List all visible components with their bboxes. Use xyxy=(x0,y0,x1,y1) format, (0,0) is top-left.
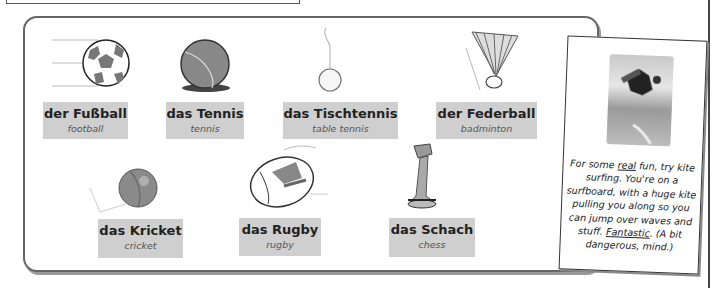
vocab-item-chess: das Schach chess xyxy=(389,218,475,257)
vocab-item-cricket: das Kricket cricket xyxy=(98,219,183,258)
vocab-item-rugby: das Rugby rugby xyxy=(239,218,321,256)
rugby-ball-icon xyxy=(244,142,334,212)
football-icon xyxy=(50,36,130,96)
cricket-ball-icon xyxy=(86,168,166,218)
vocab-item-badminton: der Federball badminton xyxy=(436,102,537,139)
kite-surfing-note-card: For some real fun, try kite surfing. You… xyxy=(559,35,708,274)
german-word: das Schach xyxy=(389,221,475,238)
english-translation: cricket xyxy=(98,239,183,252)
vocab-item-table-tennis: das Tischtennis table tennis xyxy=(283,102,398,139)
top-frame-box xyxy=(6,0,300,4)
german-word: das Tennis xyxy=(166,105,244,122)
vocab-item-football: der Fußball football xyxy=(43,102,128,139)
note-emphasis-fantastic: Fantastic xyxy=(606,226,650,239)
german-word: das Tischtennis xyxy=(283,105,398,122)
kite-surfer-photo xyxy=(606,54,673,146)
note-text-part: For some xyxy=(570,158,618,171)
german-word: das Rugby xyxy=(239,221,321,238)
english-translation: football xyxy=(43,122,128,135)
ping-pong-ball-icon xyxy=(318,26,358,96)
note-emphasis-real: real xyxy=(617,159,636,171)
tennis-ball-icon xyxy=(176,38,236,94)
page-edge-rule xyxy=(708,0,710,288)
english-translation: rugby xyxy=(239,238,321,251)
vocab-item-tennis: das Tennis tennis xyxy=(166,102,244,139)
shuttlecock-icon xyxy=(464,28,524,94)
chess-piece-icon xyxy=(400,140,450,216)
note-text-part: fun, try kite surfing. You're on a surfb… xyxy=(566,160,696,237)
english-translation: tennis xyxy=(166,122,244,135)
english-translation: badminton xyxy=(436,122,537,135)
german-word: der Fußball xyxy=(43,105,128,122)
english-translation: table tennis xyxy=(283,122,398,135)
kite-surfer-figure-icon xyxy=(606,54,673,146)
english-translation: chess xyxy=(389,238,475,251)
note-text: For some real fun, try kite surfing. You… xyxy=(564,157,698,256)
german-word: das Kricket xyxy=(98,222,183,239)
german-word: der Federball xyxy=(436,105,537,122)
